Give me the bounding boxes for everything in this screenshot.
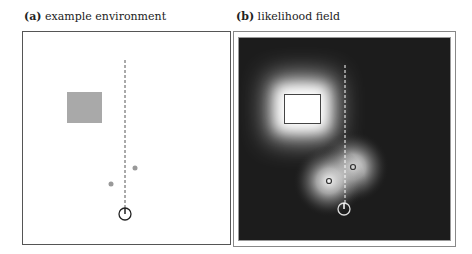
obstacle-point xyxy=(133,166,138,171)
figure-canvas xyxy=(0,0,472,254)
obstacle-point xyxy=(109,182,114,187)
obstacle-rect-outline xyxy=(285,95,321,124)
panel-b-likelihood-field xyxy=(234,32,456,247)
panel-a-environment xyxy=(23,32,231,245)
field-glow xyxy=(293,145,365,217)
obstacle-rect xyxy=(67,92,102,123)
